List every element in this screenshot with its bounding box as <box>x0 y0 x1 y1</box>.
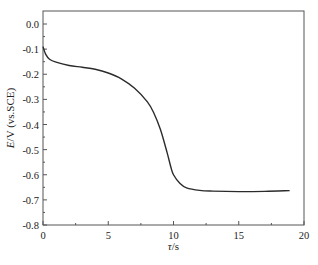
y-tick-label: -0.6 <box>22 170 39 181</box>
x-axis-ticks: 05101520 <box>40 221 309 241</box>
x-tick-label: 15 <box>234 230 245 241</box>
y-tick-label: -0.8 <box>22 220 39 231</box>
x-tick-label: 0 <box>40 230 45 241</box>
plot-border <box>43 11 304 225</box>
y-tick-label: 0.0 <box>26 19 39 30</box>
data-series <box>43 47 290 192</box>
y-tick-label: -0.4 <box>22 120 39 131</box>
x-axis-label: τ/s <box>168 240 179 252</box>
y-tick-label: -0.2 <box>22 69 39 80</box>
y-tick-label: -0.3 <box>22 94 39 105</box>
chart-container: 0.0-0.1-0.2-0.3-0.4-0.5-0.6-0.7-0.8 0510… <box>0 0 318 265</box>
y-axis-label: E/V (vs.SCE) <box>4 88 17 150</box>
x-tick-label: 5 <box>106 230 111 241</box>
y-tick-label: -0.1 <box>22 44 39 55</box>
plot-frame <box>43 11 304 225</box>
y-tick-label: -0.5 <box>22 145 39 156</box>
potential-curve <box>43 47 290 192</box>
line-chart: 0.0-0.1-0.2-0.3-0.4-0.5-0.6-0.7-0.8 0510… <box>0 0 318 265</box>
x-tick-label: 20 <box>299 230 310 241</box>
y-tick-label: -0.7 <box>22 195 39 206</box>
